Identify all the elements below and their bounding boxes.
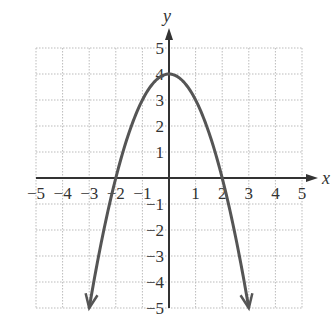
svg-text:−4: −4 <box>54 184 73 203</box>
svg-text:−1: −1 <box>146 195 164 214</box>
parabola-chart: −5−4−3−2−11234554321−1−2−3−4−5 x y <box>0 0 335 318</box>
svg-text:−3: −3 <box>80 184 98 203</box>
svg-text:−3: −3 <box>146 247 164 266</box>
x-axis-label: x <box>321 168 330 188</box>
svg-text:3: 3 <box>156 91 165 110</box>
y-axis-label: y <box>161 6 171 26</box>
svg-text:5: 5 <box>156 39 165 58</box>
svg-text:4: 4 <box>271 184 280 203</box>
svg-text:1: 1 <box>191 184 200 203</box>
svg-text:5: 5 <box>298 184 307 203</box>
svg-text:−5: −5 <box>27 184 45 203</box>
svg-text:−5: −5 <box>146 299 164 318</box>
svg-text:1: 1 <box>156 143 165 162</box>
svg-text:−2: −2 <box>146 221 164 240</box>
svg-text:2: 2 <box>156 117 165 136</box>
svg-text:−4: −4 <box>146 273 165 292</box>
svg-text:3: 3 <box>245 184 254 203</box>
